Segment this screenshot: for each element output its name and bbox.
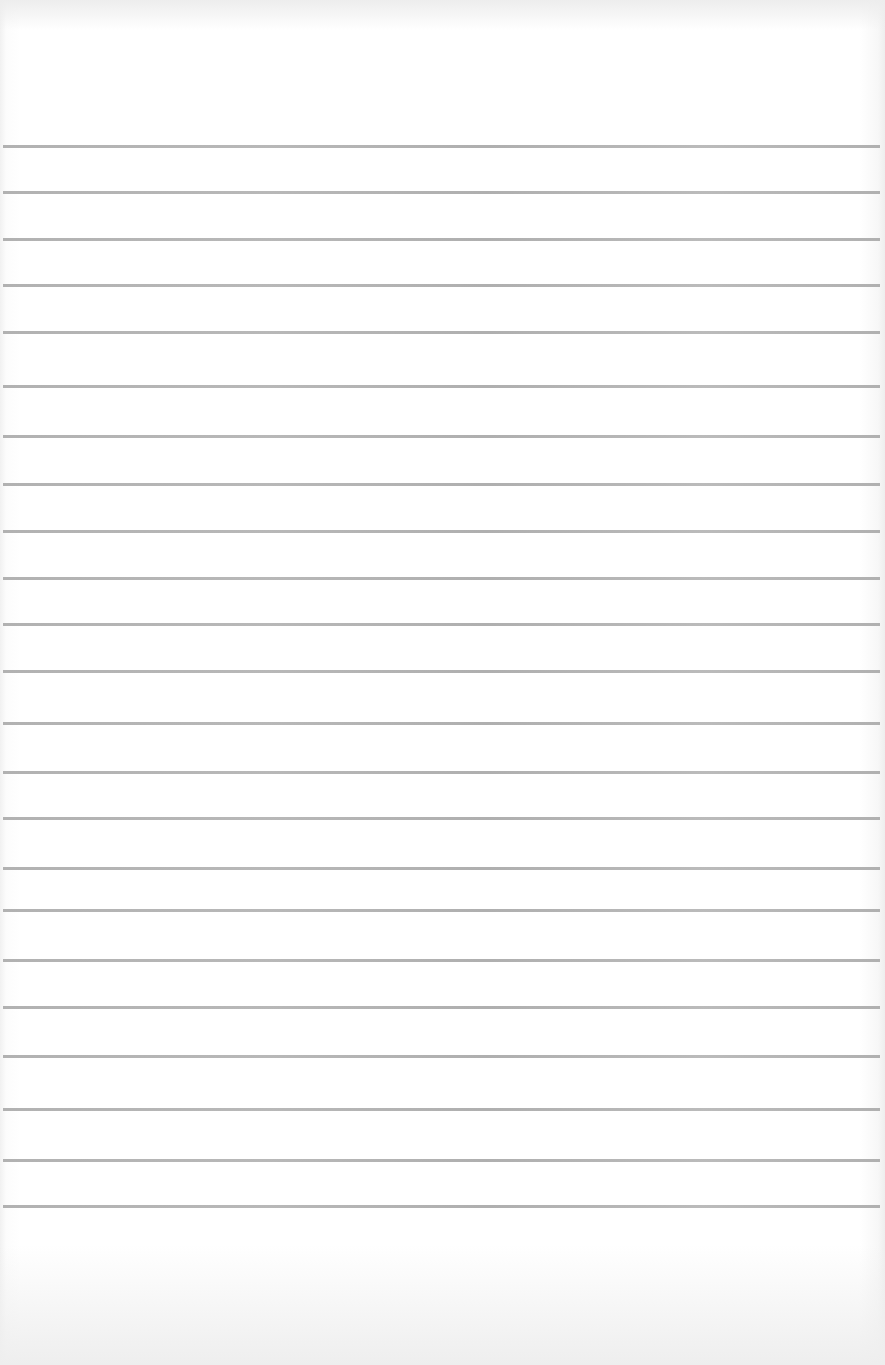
ruled-line [3, 385, 880, 388]
ruled-line [3, 191, 880, 194]
ruled-line [3, 722, 880, 725]
ruled-line [3, 483, 880, 486]
ruled-line [3, 867, 880, 870]
ruled-line [3, 284, 880, 287]
ruled-line [3, 1159, 880, 1162]
ruled-line [3, 1006, 880, 1009]
ruled-line [3, 577, 880, 580]
ruled-paper-page [0, 0, 885, 1365]
ruled-line [3, 623, 880, 626]
ruled-line [3, 959, 880, 962]
ruled-line [3, 530, 880, 533]
ruled-line [3, 435, 880, 438]
ruled-line [3, 670, 880, 673]
ruled-line [3, 1055, 880, 1058]
ruled-line [3, 771, 880, 774]
ruled-line [3, 238, 880, 241]
ruled-line [3, 1108, 880, 1111]
ruled-line [3, 145, 880, 148]
ruled-line [3, 331, 880, 334]
ruled-line [3, 1205, 880, 1208]
ruled-line [3, 909, 880, 912]
ruled-line [3, 817, 880, 820]
